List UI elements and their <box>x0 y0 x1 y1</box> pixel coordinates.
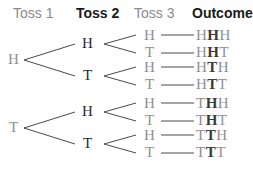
outcome-row: HHT <box>196 45 229 60</box>
toss3-node: H <box>144 28 155 43</box>
toss2-node: T <box>83 136 92 151</box>
outcome-row: THH <box>196 96 229 111</box>
toss3-node: T <box>145 77 154 92</box>
toss3-node: H <box>144 60 155 75</box>
toss2-node: H <box>82 104 93 119</box>
outcome-row: HTT <box>196 77 228 92</box>
toss3-node: T <box>145 45 154 60</box>
outcome-row: TTT <box>196 145 226 160</box>
toss2-node: T <box>83 68 92 83</box>
toss3-node: H <box>144 128 155 143</box>
toss1-node-h: H <box>8 52 19 67</box>
toss3-node: T <box>145 113 154 128</box>
outcome-row: HTH <box>196 60 229 75</box>
outcome-row: HHH <box>196 28 231 43</box>
toss2-node: H <box>82 36 93 51</box>
outcome-row: TTH <box>196 128 228 143</box>
toss3-node: H <box>144 96 155 111</box>
outcome-row: THT <box>196 113 228 128</box>
toss3-node: T <box>145 145 154 160</box>
toss1-node-t: T <box>9 120 18 135</box>
